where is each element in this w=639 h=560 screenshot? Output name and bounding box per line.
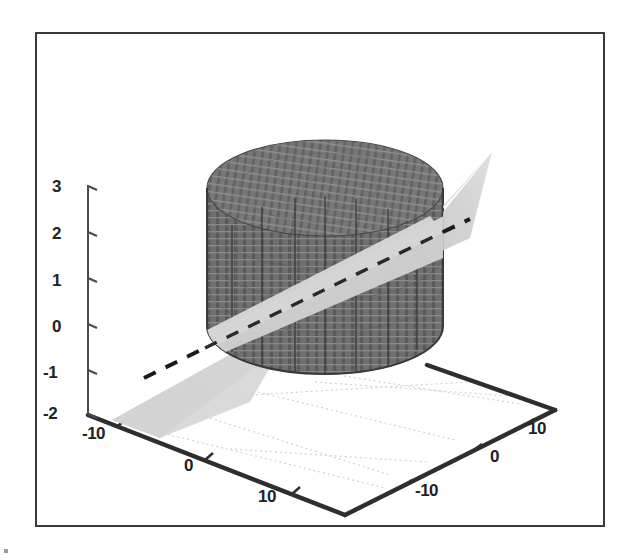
x-tick-label-neg10: -10 — [82, 424, 105, 444]
z-tick-label-neg2: -2 — [43, 404, 57, 424]
y-tick-label-10: 10 — [528, 419, 546, 439]
y-tick-label-neg10: -10 — [415, 481, 438, 501]
z-tick-label-3: 3 — [52, 177, 61, 197]
figure-root: 3 2 1 0 -1 -2 -10 0 10 -10 0 10 — [0, 0, 639, 560]
scan-artifact-speck — [4, 549, 8, 553]
z-tick-label-2: 2 — [52, 224, 61, 244]
z-tick-label-neg1: -1 — [43, 363, 57, 383]
z-tick-label-1: 1 — [52, 271, 61, 291]
z-tick-label-0: 0 — [52, 317, 61, 337]
y-tick-label-0: 0 — [490, 447, 499, 467]
x-tick-label-10: 10 — [258, 487, 276, 507]
plot-frame-border — [35, 32, 605, 527]
x-tick-label-0: 0 — [184, 456, 193, 476]
